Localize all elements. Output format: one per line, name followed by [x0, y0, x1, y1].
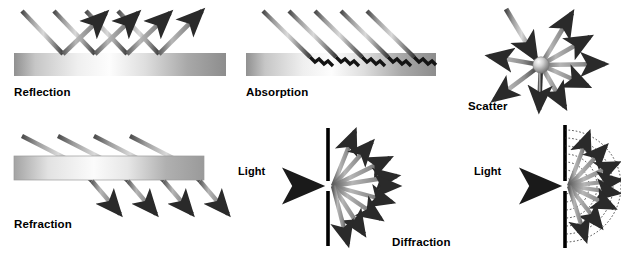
diagram-vectors [0, 0, 621, 257]
label-diffraction: Diffraction [392, 236, 451, 248]
panel-reflection [14, 11, 226, 76]
reflection-incident-rays [22, 11, 159, 54]
refraction-slab [14, 156, 204, 180]
label-light-right: Light [474, 165, 501, 177]
panel-refraction [14, 136, 228, 214]
diagram-canvas: Reflection Absorption Scatter Refraction… [0, 0, 621, 257]
reflection-reflected-rays [63, 11, 202, 54]
label-refraction: Refraction [14, 218, 72, 230]
panel-diffraction [238, 128, 398, 246]
reflection-slab [14, 53, 226, 76]
absorption-incident-rays [263, 11, 414, 57]
panel-absorption [246, 11, 436, 76]
label-light-left: Light [238, 165, 265, 177]
label-reflection: Reflection [14, 86, 71, 98]
panel-diffraction-wavefronts [474, 125, 621, 248]
scatter-particle [533, 57, 549, 73]
refraction-exit-rays [92, 181, 228, 214]
label-scatter: Scatter [468, 100, 508, 112]
scatter-incident-ray [506, 9, 536, 59]
diffraction-output-rays [333, 131, 398, 244]
label-absorption: Absorption [246, 86, 308, 98]
panel-scatter [489, 9, 605, 110]
